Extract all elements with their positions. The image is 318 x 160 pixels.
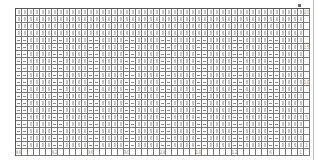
row-number-label: [304, 37, 310, 44]
row-number-label: [304, 72, 310, 79]
page-edge-divider: [313, 0, 314, 160]
row-number-label: [304, 93, 310, 100]
row-number-label: 20: [304, 9, 310, 16]
row-number-label: 5: [304, 114, 310, 121]
stitch-grid: 201510514842363024181261: [15, 8, 310, 156]
row-number-label: [304, 23, 310, 30]
row-number-label: [304, 121, 310, 128]
row-number-label: 15: [304, 44, 310, 51]
knitting-chart: 201510514842363024181261: [15, 8, 310, 156]
row-number-label: [304, 107, 310, 114]
chart-corner-marker: [298, 4, 301, 7]
row-number-label: [304, 51, 310, 58]
row-number-label: 10: [304, 79, 310, 86]
row-number-label: [304, 100, 310, 107]
row-number-label: [304, 86, 310, 93]
row-number-label: [304, 16, 310, 23]
row-number-label: [304, 128, 310, 135]
row-number-label: [304, 135, 310, 142]
row-number-label: [304, 58, 310, 65]
row-number-label: 1: [304, 142, 310, 149]
row-number-label: [304, 30, 310, 37]
row-number-label: [304, 65, 310, 72]
corner-cell: [304, 149, 310, 156]
